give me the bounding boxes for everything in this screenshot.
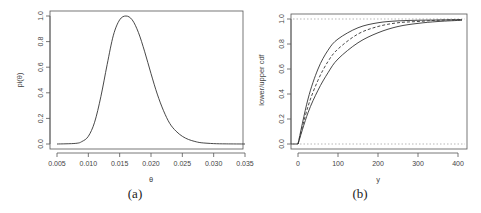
plot-b-x-axis: 0100200300400 [296, 153, 464, 167]
figure: 0.00.20.40.60.81.0 0.0050.0100.0150.0200… [0, 0, 481, 213]
plot-a-ylabel: pi(θ) [15, 72, 24, 88]
plot-b-ylabel: lower/upper cdf [257, 53, 266, 105]
plot-b-xlabel: y [376, 175, 380, 184]
upper-cdf-line [291, 20, 462, 144]
x-tick-label: 0.020 [142, 160, 160, 167]
plot-b-cdf-curves [291, 20, 462, 144]
y-tick-label: 0.8 [37, 37, 44, 47]
y-tick-label: 0.2 [37, 113, 44, 123]
lower-cdf-line [298, 20, 462, 144]
y-tick-label: 0.8 [278, 39, 285, 49]
y-tick-label: 0.4 [37, 88, 44, 98]
x-tick-label: 200 [372, 160, 384, 167]
plot-a-y-axis: 0.00.20.40.60.81.0 [37, 11, 50, 149]
plot-a-caption: (a) [128, 186, 142, 201]
y-tick-label: 0.6 [278, 64, 285, 74]
plot-a-density-curve [57, 16, 245, 144]
plot-a-xlabel: θ [149, 175, 153, 184]
x-tick-label: 400 [452, 160, 464, 167]
plot-a-x-axis: 0.0050.0100.0150.0200.0250.0300.035 [48, 153, 254, 167]
x-tick-label: 0.005 [48, 160, 66, 167]
y-tick-label: 1.0 [278, 14, 285, 24]
x-tick-label: 100 [332, 160, 344, 167]
y-tick-label: 0.2 [278, 114, 285, 124]
plot-a-frame [50, 11, 243, 149]
x-tick-label: 0.010 [80, 160, 98, 167]
plot-b-caption: (b) [352, 186, 367, 201]
x-tick-label: 0.035 [236, 160, 254, 167]
x-tick-label: 0.030 [205, 160, 223, 167]
y-tick-label: 0.4 [278, 89, 285, 99]
plot-b-reference-lines [293, 19, 465, 144]
plot-b: 0.00.20.40.60.81.0 0100200300400 y lower… [257, 14, 467, 201]
y-tick-label: 0.6 [37, 62, 44, 72]
y-tick-label: 0.0 [37, 139, 44, 149]
x-tick-label: 0.015 [111, 160, 129, 167]
x-tick-label: 0.025 [174, 160, 192, 167]
x-tick-label: 300 [412, 160, 424, 167]
plot-b-y-axis: 0.00.20.40.60.81.0 [278, 14, 291, 149]
x-tick-label: 0 [296, 160, 300, 167]
plot-a: 0.00.20.40.60.81.0 0.0050.0100.0150.0200… [15, 11, 254, 201]
y-tick-label: 0.0 [278, 139, 285, 149]
y-tick-label: 1.0 [37, 11, 44, 21]
